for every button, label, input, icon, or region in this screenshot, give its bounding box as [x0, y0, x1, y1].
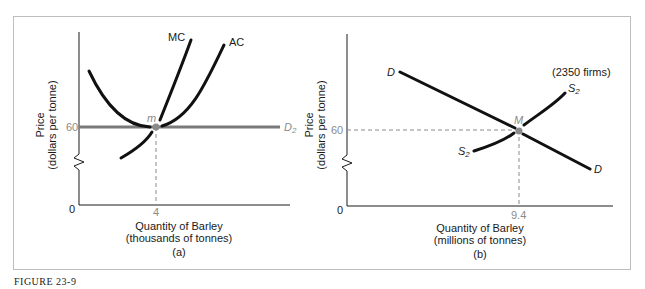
panel-a-y-tick-60: 60 — [66, 121, 78, 133]
panel-a: MC AC m D2 60 0 4 Price (dollars per ton… — [34, 31, 297, 258]
panel-a-x-tick-0: 0 — [69, 203, 75, 215]
panel-a-panel-label: (a) — [172, 246, 185, 258]
panel-b-demand-line — [400, 72, 590, 169]
figure-svg: MC AC m D2 60 0 4 Price (dollars per ton… — [0, 0, 645, 289]
panel-b-xlabel-2: (millions of tonnes) — [434, 234, 526, 246]
panel-a-xlabel-2: (thousands of tonnes) — [126, 232, 232, 244]
panel-a-ylabel-2: (dollars per tonne) — [46, 80, 58, 169]
panel-b-y-axis — [342, 34, 613, 206]
panel-a-point-m — [153, 124, 160, 131]
panel-a-y-axis — [74, 32, 290, 205]
panel-b-point-m — [516, 128, 523, 135]
panel-a-d2-label: D2 — [284, 121, 297, 135]
panel-a-xlabel-1: Quantity of Barley — [135, 220, 223, 232]
panel-b-s2-label-top: S2 — [568, 82, 580, 96]
panel-b-d-label-bottom: D — [594, 163, 602, 175]
panel-b-y-tick-60: 60 — [331, 124, 343, 136]
panel-a-point-label: m — [147, 112, 156, 124]
figure-caption: FIGURE 23-9 — [14, 276, 76, 287]
panel-b: D D (2350 firms) S2 S2 M 60 0 9.4 Price … — [303, 34, 613, 260]
panel-a-ac-curve — [89, 45, 224, 127]
panel-a-mc-curve — [121, 40, 191, 158]
panel-b-x-tick-94: 9.4 — [511, 209, 526, 221]
panel-b-xlabel-1: Quantity of Barley — [436, 222, 524, 234]
panel-b-firms-label: (2350 firms) — [552, 66, 611, 78]
panel-b-d-label-top: D — [387, 66, 395, 78]
panel-b-ylabel-1: Price — [303, 112, 315, 137]
panel-b-ylabel-2: (dollars per tonne) — [315, 80, 327, 169]
panel-b-panel-label: (b) — [473, 248, 486, 260]
panel-a-x-tick-4: 4 — [153, 206, 159, 218]
panel-b-point-label: M — [514, 114, 524, 126]
panel-a-ylabel-1: Price — [34, 112, 46, 137]
panel-a-mc-label: MC — [168, 31, 185, 43]
panel-a-ac-label: AC — [229, 36, 244, 48]
panel-b-s2-label-bottom: S2 — [458, 145, 470, 159]
panel-b-x-tick-0: 0 — [337, 204, 343, 216]
